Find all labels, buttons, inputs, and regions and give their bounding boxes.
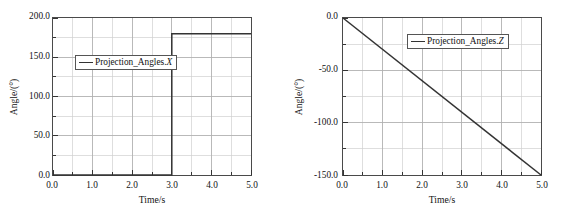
y-tick-label: 200.0: [10, 12, 50, 21]
series-line-projection-angles-x: [53, 18, 251, 175]
plot-area-left: [52, 17, 252, 176]
x-tick-label: 2.0: [126, 181, 138, 190]
x-tick-label: 4.0: [496, 181, 508, 190]
legend-line-swatch: [79, 62, 93, 63]
x-tick-label: 3.0: [166, 181, 178, 190]
y-axis-title: Angle/(°): [8, 78, 19, 114]
chart-projection-angles-x: Projection_Angles.X 0.0 50.0 100.0 150.0…: [0, 0, 289, 211]
y-tick-label: -50.0: [292, 65, 338, 74]
y-tick-label: 50.0: [10, 132, 50, 141]
y-tick-label: 0.0: [292, 12, 338, 21]
y-axis-title: Angle/(°): [293, 78, 304, 114]
legend-line-swatch: [411, 41, 425, 42]
y-tick-label: 0.0: [10, 171, 50, 180]
x-tick-label: 2.0: [416, 181, 428, 190]
x-tick-label: 0.0: [46, 181, 58, 190]
y-tick-label: -150.0: [292, 171, 338, 180]
x-tick-label: 1.0: [86, 181, 98, 190]
legend-label-projection-angles-x: Projection_Angles.X: [95, 58, 172, 67]
x-tick-label: 5.0: [246, 181, 258, 190]
legend-right[interactable]: Projection_Angles.Z: [407, 34, 509, 49]
x-tick-label: 3.0: [456, 181, 468, 190]
figure-panel: Projection_Angles.X 0.0 50.0 100.0 150.0…: [0, 0, 578, 211]
x-tick-label: 0.0: [336, 181, 348, 190]
x-tick-label: 1.0: [376, 181, 388, 190]
y-tick-label: -100.0: [292, 118, 338, 127]
chart-projection-angles-z: Projection_Angles.Z 0.0 -50.0 -100.0 -15…: [289, 0, 578, 211]
x-axis-title: Time/s: [429, 194, 455, 205]
legend-label-projection-angles-z: Projection_Angles.Z: [427, 37, 504, 46]
x-tick-label: 5.0: [536, 181, 548, 190]
y-tick-label: 150.0: [10, 52, 50, 61]
legend-left[interactable]: Projection_Angles.X: [75, 55, 177, 70]
x-axis-title: Time/s: [139, 194, 165, 205]
x-tick-label: 4.0: [206, 181, 218, 190]
